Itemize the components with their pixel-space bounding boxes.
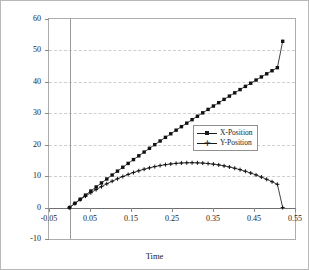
data-point: [100, 181, 103, 184]
data-point: [244, 85, 247, 88]
data-point: [132, 158, 135, 161]
x-axis-tick-label: 0.05: [70, 215, 110, 223]
legend-label: X-Position: [220, 128, 253, 138]
y-axis-tick-label: 40: [9, 78, 41, 86]
data-point: [190, 161, 194, 165]
y-axis-tick-label: 20: [9, 141, 41, 149]
data-point: [259, 175, 263, 179]
data-point: [164, 136, 167, 139]
x-axis-tick: [295, 208, 296, 212]
x-axis-tick-label: 0.55: [275, 215, 309, 223]
data-point: [153, 165, 157, 169]
data-point: [211, 162, 215, 166]
x-axis-tick-label: -0.05: [29, 215, 69, 223]
y-axis-tick-label: 30: [9, 109, 41, 117]
data-point: [126, 162, 129, 165]
data-point: [206, 162, 210, 166]
data-point: [206, 108, 209, 111]
data-point: [270, 180, 274, 184]
data-point: [105, 177, 108, 180]
data-point: [142, 167, 146, 171]
data-point: [217, 163, 221, 167]
legend-marker-plus-icon: ✛: [197, 139, 217, 148]
data-point: [179, 161, 183, 165]
data-point: [180, 125, 183, 128]
data-point: [131, 171, 135, 175]
data-point: [254, 173, 258, 177]
data-point: [115, 177, 119, 181]
data-point: [137, 169, 141, 173]
x-axis-tick-label: 0.25: [152, 215, 192, 223]
legend-marker-square-icon: [197, 129, 217, 138]
data-point: [281, 206, 285, 210]
data-point: [147, 166, 151, 170]
legend-item-y-position: ✛ Y-Position: [197, 138, 253, 148]
data-point: [190, 118, 193, 121]
y-axis-tick: [45, 239, 49, 240]
data-point: [254, 78, 257, 81]
data-point: [163, 163, 167, 167]
data-point: [238, 88, 241, 91]
data-point: [142, 150, 145, 153]
data-point: [249, 171, 253, 175]
data-point: [222, 164, 226, 168]
data-point: [222, 98, 225, 101]
plot-frame: [48, 18, 296, 240]
y-axis-tick-label: 10: [9, 172, 41, 180]
data-point: [158, 164, 162, 168]
data-point: [196, 115, 199, 118]
x-axis-tick-label: 0.45: [234, 215, 274, 223]
data-point: [153, 143, 156, 146]
data-point: [121, 175, 125, 179]
x-axis-title: Time: [1, 251, 308, 261]
data-point: [110, 173, 113, 176]
data-point: [148, 147, 151, 150]
legend-item-x-position: X-Position: [197, 128, 253, 138]
data-point: [105, 182, 109, 186]
plot-area: [49, 19, 295, 239]
data-point: [201, 161, 205, 165]
data-point: [99, 185, 103, 189]
data-point: [169, 162, 173, 166]
y-axis-tick-label: 0: [9, 204, 41, 212]
y-axis-tick-label: 50: [9, 46, 41, 54]
data-point: [260, 75, 263, 78]
data-point: [249, 82, 252, 85]
data-point: [137, 154, 140, 157]
data-point: [265, 72, 268, 75]
data-point: [110, 179, 114, 183]
data-point: [201, 111, 204, 114]
data-point: [121, 166, 124, 169]
data-point: [169, 132, 172, 135]
data-point: [227, 165, 231, 169]
data-point: [158, 139, 161, 142]
data-point: [276, 66, 279, 69]
data-point: [116, 169, 119, 172]
data-point: [185, 121, 188, 124]
data-point: [174, 128, 177, 131]
data-point: [195, 161, 199, 165]
x-axis-tick-label: 0.35: [193, 215, 233, 223]
chart-legend: X-Position ✛ Y-Position: [193, 125, 258, 151]
series-y-position: [68, 161, 285, 210]
y-axis-tick-label: -10: [9, 235, 41, 243]
data-point: [217, 101, 220, 104]
data-point: [243, 169, 247, 173]
data-point: [228, 94, 231, 97]
data-point: [233, 166, 237, 170]
data-point: [265, 177, 269, 181]
y-axis-tick-label: 60: [9, 15, 41, 23]
data-point: [238, 168, 242, 172]
series-layer: [49, 19, 295, 239]
data-point: [185, 161, 189, 165]
data-point: [233, 91, 236, 94]
x-axis-tick-label: 0.15: [111, 215, 151, 223]
data-point: [275, 182, 279, 186]
data-point: [270, 69, 273, 72]
data-point: [126, 172, 130, 176]
data-point: [212, 104, 215, 107]
data-point: [281, 40, 284, 43]
legend-label: Y-Position: [220, 138, 252, 148]
chart-container: -100102030405060 -0.050.050.150.250.350.…: [0, 0, 309, 270]
data-point: [174, 161, 178, 165]
